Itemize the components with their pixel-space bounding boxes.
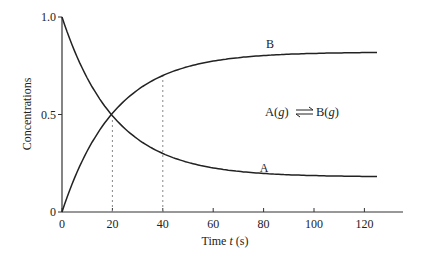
svg-text:A(g): A(g) xyxy=(265,105,289,119)
curve-b-label: B xyxy=(266,37,274,51)
x-tick-label: 120 xyxy=(355,217,373,231)
curve-b xyxy=(62,53,377,213)
curve-a xyxy=(62,17,377,177)
x-tick-label: 60 xyxy=(207,217,219,231)
equilibrium-arrows-icon xyxy=(296,107,313,117)
reaction-equation: A(g) B(g) xyxy=(265,105,339,119)
x-axis-label: Time t (s) xyxy=(202,234,249,248)
svg-text:B(g): B(g) xyxy=(316,105,339,119)
x-tick-label: 80 xyxy=(258,217,270,231)
curve-a-label: A xyxy=(260,161,269,175)
y-axis-label: Concentrations xyxy=(20,77,34,150)
x-tick-label: 40 xyxy=(157,217,169,231)
dashed-guides xyxy=(112,76,162,212)
y-tick-label: 0.5 xyxy=(41,108,56,122)
x-tick-label: 100 xyxy=(305,217,323,231)
axes xyxy=(62,17,403,212)
y-tick-label: 1.0 xyxy=(41,10,56,24)
y-ticks: 00.51.0 xyxy=(41,10,62,219)
x-tick-label: 20 xyxy=(106,217,118,231)
x-tick-label: 0 xyxy=(59,217,65,231)
y-tick-label: 0 xyxy=(50,205,56,219)
concentration-time-chart: 00.51.0 020406080100120 A B A(g) B(g) Ti… xyxy=(0,0,423,261)
